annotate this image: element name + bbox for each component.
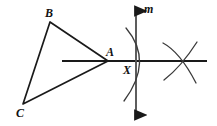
geometry-canvas (0, 0, 217, 126)
label-vertex-c: C (16, 107, 24, 119)
geometry-figure: B C A X m (0, 0, 217, 126)
label-point-x: X (123, 64, 131, 76)
triangle-abc (23, 22, 108, 104)
label-vertex-a: A (106, 46, 114, 58)
label-line-m: m (144, 3, 153, 15)
label-vertex-b: B (45, 7, 53, 19)
